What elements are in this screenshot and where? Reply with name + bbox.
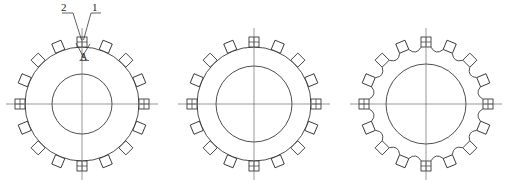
tooth-body <box>31 53 45 67</box>
tooth <box>271 40 284 53</box>
tooth <box>463 141 477 155</box>
tooth-body <box>477 121 490 134</box>
tooth <box>99 155 112 168</box>
tooth <box>190 121 203 134</box>
tooth <box>396 40 409 53</box>
tooth-body <box>31 141 45 155</box>
tooth <box>99 40 112 53</box>
tooth <box>477 121 490 134</box>
centerline-group <box>178 28 330 180</box>
tooth <box>362 121 375 134</box>
tooth <box>305 121 318 134</box>
tooth-body <box>133 74 146 87</box>
drawing-sheet: 2 1 A <box>0 0 508 189</box>
tooth <box>396 155 409 168</box>
tooth-body <box>18 121 31 134</box>
tooth <box>133 121 146 134</box>
tooth <box>203 53 217 67</box>
callout-2-leader <box>73 13 82 40</box>
tooth-body <box>362 74 375 87</box>
tooth-body <box>477 74 490 87</box>
tooth <box>362 74 375 87</box>
tooth-body <box>443 155 456 168</box>
tooth <box>119 141 133 155</box>
callout-1-leader <box>84 13 92 40</box>
tooth-body <box>271 40 284 53</box>
tooth <box>119 53 133 67</box>
tooth-body <box>271 155 284 168</box>
tooth <box>224 155 237 168</box>
tooth <box>443 40 456 53</box>
tooth-body <box>99 155 112 168</box>
tooth <box>375 53 389 67</box>
tooth-body <box>203 53 217 67</box>
tooth-body <box>224 155 237 168</box>
tooth <box>52 155 65 168</box>
tooth-body <box>119 53 133 67</box>
tooth-body <box>463 141 477 155</box>
tooth-body <box>52 40 65 53</box>
tooth <box>31 141 45 155</box>
callout-annotations: 2 1 A <box>61 1 101 62</box>
tooth-body <box>291 53 305 67</box>
tooth <box>31 53 45 67</box>
tooth-body <box>224 40 237 53</box>
tooth-body <box>396 40 409 53</box>
callout-1-label: 1 <box>92 1 98 13</box>
tooth <box>18 121 31 134</box>
tooth <box>18 74 31 87</box>
tooth <box>224 40 237 53</box>
tooth <box>477 74 490 87</box>
gear-figure-middle <box>178 28 330 180</box>
tooth-body <box>203 141 217 155</box>
callout-a-label: A <box>80 51 88 62</box>
tooth-body <box>119 141 133 155</box>
tooth <box>190 74 203 87</box>
tooth-body <box>18 74 31 87</box>
tooth-body <box>190 121 203 134</box>
tooth-body <box>362 121 375 134</box>
tooth <box>271 155 284 168</box>
tooth-body <box>291 141 305 155</box>
technical-drawing-canvas: 2 1 A <box>0 0 508 189</box>
callout-2-label: 2 <box>61 1 67 13</box>
tooth <box>375 141 389 155</box>
tooth-body <box>133 121 146 134</box>
tooth <box>443 155 456 168</box>
centerline-group <box>350 28 502 180</box>
tooth <box>203 141 217 155</box>
tooth <box>305 74 318 87</box>
tooth-body <box>443 40 456 53</box>
tooth-body <box>375 53 389 67</box>
tooth-body <box>305 74 318 87</box>
tooth <box>52 40 65 53</box>
gear-figure-right <box>350 28 502 180</box>
tooth-body <box>99 40 112 53</box>
tooth <box>291 53 305 67</box>
tooth-body <box>463 53 477 67</box>
tooth <box>133 74 146 87</box>
tooth <box>463 53 477 67</box>
tooth-body <box>305 121 318 134</box>
tooth-body <box>190 74 203 87</box>
tooth-body <box>375 141 389 155</box>
tooth-body <box>396 155 409 168</box>
tooth <box>291 141 305 155</box>
tooth-body <box>52 155 65 168</box>
